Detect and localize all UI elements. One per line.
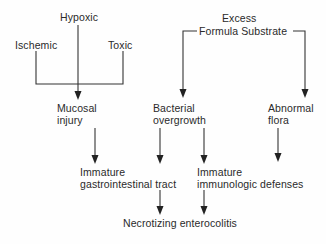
arrowhead-icon bbox=[180, 89, 187, 98]
edge-formula-flora bbox=[293, 31, 305, 90]
node-ischemic: Ischemic bbox=[15, 39, 57, 51]
arrowhead-icon bbox=[275, 153, 282, 162]
arrowhead-icon bbox=[92, 155, 99, 164]
edge-formula-bacterial bbox=[183, 31, 197, 90]
nec-pathogenesis-diagram: Hypoxic Ischemic Toxic Excess Formula Su… bbox=[0, 0, 326, 244]
arrowhead-icon bbox=[75, 91, 82, 100]
node-hypoxic: Hypoxic bbox=[60, 11, 98, 23]
node-formula-substrate: Formula Substrate bbox=[199, 25, 287, 37]
arrowhead-icon bbox=[302, 89, 309, 98]
arrowhead-icon bbox=[157, 206, 164, 215]
node-immature-gi: Immature gastrointestinal tract bbox=[80, 166, 176, 190]
node-immature-immuno: Immature immunologic defenses bbox=[197, 166, 303, 190]
node-abnormal-flora: Abnormal flora bbox=[268, 102, 314, 126]
node-mucosal-injury: Mucosal injury bbox=[57, 102, 97, 126]
node-excess-label: Excess bbox=[222, 12, 256, 24]
node-necrotizing-enterocolitis: Necrotizing enterocolitis bbox=[123, 217, 237, 229]
edge-ischemic-toxic-bracket bbox=[36, 51, 123, 84]
arrowhead-icon bbox=[201, 206, 208, 215]
node-toxic: Toxic bbox=[108, 39, 132, 51]
arrowhead-icon bbox=[157, 155, 164, 164]
arrowhead-icon bbox=[201, 155, 208, 164]
node-bacterial-overgrowth: Bacterial overgrowth bbox=[153, 102, 206, 126]
